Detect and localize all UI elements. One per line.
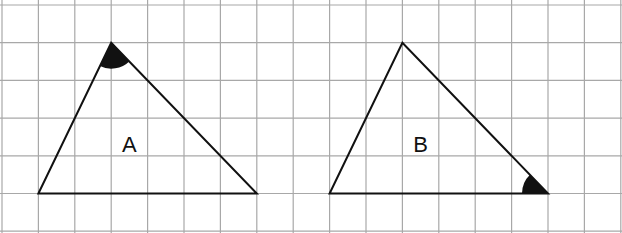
grid-diagram: A B — [0, 0, 622, 233]
triangle-b-label: B — [413, 132, 428, 157]
triangle-a-label: A — [122, 132, 137, 157]
square-grid — [0, 0, 622, 233]
